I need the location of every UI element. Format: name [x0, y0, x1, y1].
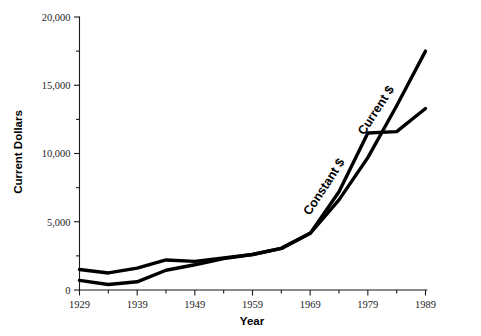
x-tick-label: 1979 [357, 299, 378, 310]
y-tick-label: 10,000 [42, 148, 71, 159]
y-axis-title: Current Dollars [12, 110, 24, 194]
x-tick-label: 1959 [242, 299, 263, 310]
x-axis-group: 1929193919491959196919791989 [69, 290, 436, 310]
x-axis-tick-labels: 1929193919491959196919791989 [69, 299, 436, 310]
x-tick-label: 1949 [184, 299, 205, 310]
chart-figure: 05,00010,00015,00020,000 192919391949195… [0, 0, 481, 336]
y-tick-label: 5,000 [47, 217, 71, 228]
y-axis-group: 05,00010,00015,00020,000 [42, 12, 80, 296]
series-line-0 [80, 108, 426, 272]
y-tick-label: 20,000 [42, 12, 71, 23]
x-tick-label: 1989 [415, 299, 436, 310]
y-axis-major-ticks [74, 17, 80, 290]
series-annotation-1: Current $ [355, 83, 397, 137]
x-tick-label: 1929 [69, 299, 90, 310]
x-axis-title: Year [240, 315, 265, 327]
y-axis-tick-labels: 05,00010,00015,00020,000 [42, 12, 71, 296]
x-axis-major-ticks [80, 290, 426, 296]
x-tick-label: 1969 [300, 299, 321, 310]
data-series-group [80, 51, 426, 284]
x-tick-label: 1939 [127, 299, 148, 310]
line-chart-canvas: 05,00010,00015,00020,000 192919391949195… [0, 0, 481, 336]
y-tick-label: 0 [65, 285, 70, 296]
series-annotations: Constant $Current $ [301, 83, 397, 217]
series-line-1 [80, 51, 426, 284]
y-tick-label: 15,000 [42, 80, 71, 91]
